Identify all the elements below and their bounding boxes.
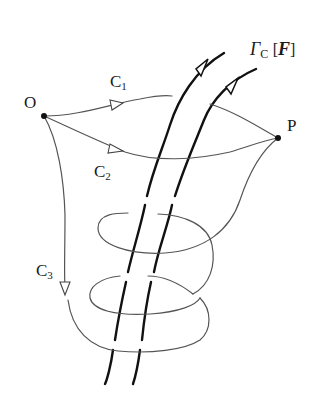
- diagram-svg: [0, 0, 331, 411]
- field-line-right: [133, 69, 256, 384]
- field-tube-label: ΓC [F]: [250, 40, 295, 60]
- path-c1-label: C1: [110, 73, 127, 92]
- path-c3-upper-loop: [98, 138, 278, 253]
- c1-arrow-icon: [110, 100, 123, 110]
- path-c1-continued: [210, 104, 278, 138]
- c3-arrow-icon: [60, 282, 70, 295]
- point-p-dot: [275, 135, 281, 141]
- field-arrow-icons: [196, 59, 238, 94]
- path-c3-label: C3: [36, 262, 53, 281]
- point-p-label: P: [287, 117, 296, 134]
- gamma-subscript: C: [260, 47, 268, 61]
- close-bracket: ]: [290, 41, 295, 58]
- path-c2-label: C2: [94, 163, 111, 182]
- gamma-symbol: Γ: [250, 39, 260, 59]
- point-o-dot: [41, 113, 47, 119]
- point-o-label: O: [24, 94, 36, 111]
- field-argument: F: [278, 39, 290, 59]
- path-c1: [44, 96, 172, 116]
- c2-arrow-icon: [108, 144, 123, 153]
- field-arrow-right-icon: [226, 78, 238, 94]
- path-c3-lower-loop: [148, 276, 193, 294]
- diagram-canvas: ΓC [F] O P C1 C2 C3: [0, 0, 331, 411]
